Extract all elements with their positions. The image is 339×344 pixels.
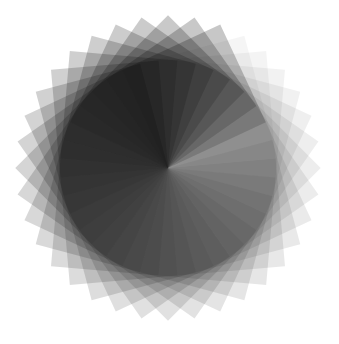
rosette-artwork xyxy=(0,0,339,344)
artwork-canvas xyxy=(0,0,339,344)
